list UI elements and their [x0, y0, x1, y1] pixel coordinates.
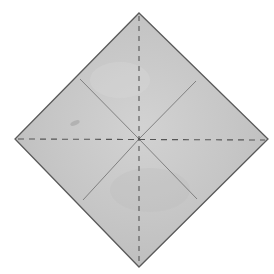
paper-shadow — [110, 168, 190, 212]
origami-diagram — [0, 0, 274, 274]
paper-highlight — [90, 62, 150, 98]
fold-center-point — [138, 138, 140, 140]
